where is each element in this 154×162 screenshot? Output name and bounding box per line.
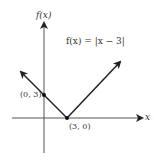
point-0-3-marker <box>42 93 46 97</box>
point-3-0-label: (3, 0) <box>69 122 91 131</box>
x-axis-label: x <box>145 112 150 122</box>
point-0-3-label: (0, 3) <box>20 90 42 99</box>
y-axis-label: f(x) <box>36 10 51 20</box>
absolute-value-graph: f(x) x f(x) = |x − 3| (0, 3) (3, 0) <box>0 0 154 162</box>
graph-right-branch <box>67 62 120 118</box>
equation-label: f(x) = |x − 3| <box>66 36 125 46</box>
graph-canvas <box>0 0 154 162</box>
point-3-0-marker <box>65 116 69 120</box>
